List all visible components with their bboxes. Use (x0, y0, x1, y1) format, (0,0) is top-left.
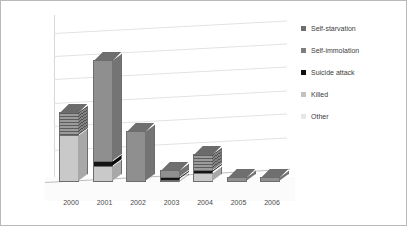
legend-swatch-killed-icon (301, 92, 306, 97)
bar-segment[interactable] (227, 177, 247, 182)
x-axis-tick-label: 2000 (63, 199, 79, 206)
chart-container: 0102030405060 20002001200220032004200520… (0, 0, 407, 226)
x-axis-tick-label: 2004 (197, 199, 213, 206)
legend-item[interactable]: Suicide attack (301, 61, 401, 83)
bar-column[interactable] (126, 131, 146, 182)
legend-swatch-self-immolation-icon (301, 48, 306, 53)
legend-swatch-self-starvation-icon (301, 26, 306, 31)
bar-column[interactable] (160, 170, 180, 182)
chart-legend: Self-starvationSelf-immolationSuicide at… (301, 17, 401, 127)
x-axis-tick-label: 2002 (130, 199, 146, 206)
bar-segment-side (145, 124, 155, 181)
bar-segment-side (78, 129, 88, 181)
legend-item[interactable]: Killed (301, 83, 401, 105)
legend-swatch-other-icon (301, 114, 306, 119)
legend-item[interactable]: Self-immolation (301, 39, 401, 61)
legend-item-label: Killed (311, 91, 328, 98)
bar-segment[interactable] (126, 131, 146, 182)
legend-item[interactable]: Self-starvation (301, 17, 401, 39)
plot-area (45, 15, 295, 191)
bar-column[interactable] (93, 60, 113, 182)
bar-segment[interactable] (93, 166, 113, 182)
legend-item[interactable]: Other (301, 105, 401, 127)
bar-segment[interactable] (59, 112, 79, 135)
bar-column[interactable] (193, 154, 213, 182)
legend-item-label: Suicide attack (311, 69, 355, 76)
x-axis-tick-label: 2006 (264, 199, 280, 206)
bar-segment-side (112, 54, 122, 161)
x-axis: 2000200120022003200420052006 (45, 191, 295, 213)
bar-column[interactable] (59, 112, 79, 182)
bar-segment[interactable] (260, 177, 280, 182)
bar-segment[interactable] (59, 135, 79, 182)
bar-column[interactable] (260, 177, 280, 182)
legend-item-label: Self-starvation (311, 25, 356, 32)
bar-segment[interactable] (160, 170, 180, 177)
bar-column[interactable] (227, 177, 247, 182)
x-axis-tick-label: 2005 (231, 199, 247, 206)
legend-item-label: Other (311, 113, 329, 120)
bar-segment[interactable] (93, 60, 113, 161)
x-axis-tick-label: 2001 (97, 199, 113, 206)
bar-segment[interactable] (193, 154, 213, 170)
bar-segment[interactable] (193, 173, 213, 182)
x-axis-tick-label: 2003 (164, 199, 180, 206)
bar-segment[interactable] (160, 180, 180, 182)
legend-swatch-suicide-attack-icon (301, 70, 306, 75)
legend-item-label: Self-immolation (311, 47, 359, 54)
